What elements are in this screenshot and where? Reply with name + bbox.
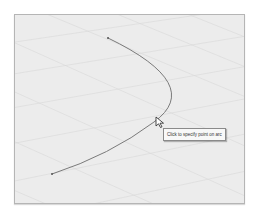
tooltip: Click to specify point on arc: [163, 128, 226, 141]
3d-viewport[interactable]: [14, 14, 245, 204]
arc-start-point: [107, 37, 109, 39]
arc-end-point: [51, 173, 53, 175]
arrow-cursor-icon: [155, 116, 165, 128]
perspective-grid: [15, 15, 245, 204]
